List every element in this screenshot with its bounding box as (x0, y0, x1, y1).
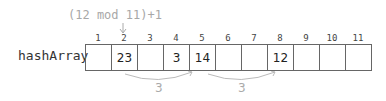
hash-array: 23 3 14 12 (85, 44, 372, 71)
jump-label: 3 (155, 81, 163, 95)
index-label: 11 (345, 33, 371, 43)
array-cell: 12 (267, 44, 294, 71)
index-label: 8 (267, 33, 293, 43)
array-name-label: hashArray (18, 48, 88, 63)
index-label: 4 (163, 33, 189, 43)
array-cell: 14 (189, 44, 216, 71)
index-label: 7 (241, 33, 267, 43)
jump-arc-1 (125, 71, 192, 80)
array-cell (345, 44, 372, 71)
index-label: 9 (293, 33, 319, 43)
index-label: 3 (137, 33, 163, 43)
jump-label: 3 (238, 81, 246, 95)
index-label: 2 (111, 33, 137, 43)
array-cell (293, 44, 320, 71)
array-cell: 3 (163, 44, 190, 71)
index-label: 5 (189, 33, 215, 43)
array-cell: 23 (111, 44, 138, 71)
jump-arc-2 (208, 71, 275, 80)
array-cell (137, 44, 164, 71)
array-cell (319, 44, 346, 71)
array-cell (215, 44, 242, 71)
index-label: 6 (215, 33, 241, 43)
down-arrow-icon (120, 23, 126, 33)
array-cell (85, 44, 112, 71)
index-label: 1 (85, 33, 111, 43)
index-label: 10 (319, 33, 345, 43)
array-cell (241, 44, 268, 71)
